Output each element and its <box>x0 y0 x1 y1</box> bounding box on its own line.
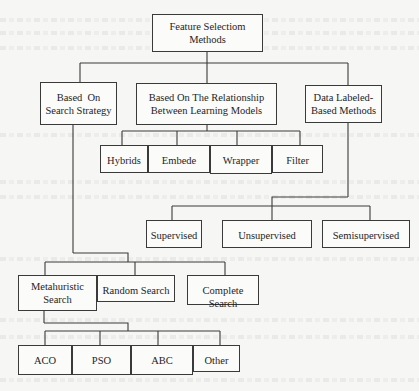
node-supervised: Supervised <box>146 220 202 248</box>
node-complete-search: Complete Search <box>187 275 259 305</box>
node-based-on-relationship: Based On The Relationship Between Learni… <box>136 83 277 125</box>
node-label: Data Labeled- <box>314 91 374 104</box>
node-label: ACO <box>34 354 56 367</box>
node-data-labeled-based-methods: Data Labeled- Based Methods <box>305 85 382 123</box>
node-label: Semisupervised <box>333 229 400 242</box>
node-label: Based On The Relationship <box>149 91 265 104</box>
node-wrapper: Wrapper <box>210 145 272 174</box>
node-label: Hybrids <box>107 154 141 167</box>
node-label: Complete Search <box>188 284 258 310</box>
node-label: Feature Selectiom <box>169 20 245 33</box>
node-based-on-search-strategy: Based On Search Strategy <box>40 82 117 125</box>
node-label: Between Learning Models <box>151 104 262 117</box>
node-label: Supervised <box>151 229 198 242</box>
node-label: Metahuristic <box>31 280 84 293</box>
node-label: Methods <box>189 33 226 46</box>
node-label: Unsupervised <box>238 229 296 242</box>
node-embede: Embede <box>148 145 210 173</box>
node-filter: Filter <box>272 145 323 173</box>
node-random-search: Random Search <box>97 275 175 302</box>
connector-lines <box>0 0 419 391</box>
node-label: Based On <box>57 91 101 104</box>
node-label: Search <box>43 293 72 306</box>
node-unsupervised: Unsupervised <box>222 220 312 248</box>
node-abc: ABC <box>131 345 193 375</box>
node-label: Search Strategy <box>45 104 111 117</box>
node-label: Embede <box>162 154 196 167</box>
node-pso: PSO <box>72 345 131 375</box>
node-semisupervised: Semisupervised <box>322 220 410 248</box>
node-label: Random Search <box>103 284 170 297</box>
node-label: Other <box>205 354 229 367</box>
node-metaheuristic-search: Metahuristic Search <box>18 275 97 311</box>
node-label: ABC <box>151 354 173 367</box>
node-label: Filter <box>286 154 309 167</box>
node-aco: ACO <box>18 345 72 375</box>
node-label: Wrapper <box>223 154 259 167</box>
node-feature-selection-methods: Feature Selectiom Methods <box>152 14 263 52</box>
node-label: PSO <box>92 354 111 367</box>
node-label: Based Methods <box>311 104 376 117</box>
node-hybrids: Hybrids <box>100 145 148 173</box>
node-other: Other <box>193 345 240 372</box>
